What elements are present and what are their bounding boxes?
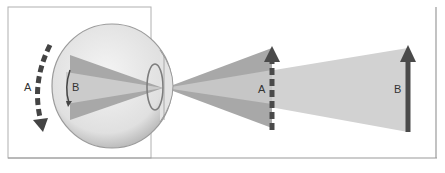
retina-arrow-a <box>38 45 51 125</box>
label-object-b: B <box>394 84 401 95</box>
label-retina-a: A <box>24 82 31 93</box>
label-object-a: A <box>258 84 265 95</box>
eyeball <box>52 24 173 148</box>
label-retina-b: B <box>72 82 79 93</box>
eye-diagram <box>0 0 445 173</box>
diagram-frame: A B A B <box>0 0 445 173</box>
